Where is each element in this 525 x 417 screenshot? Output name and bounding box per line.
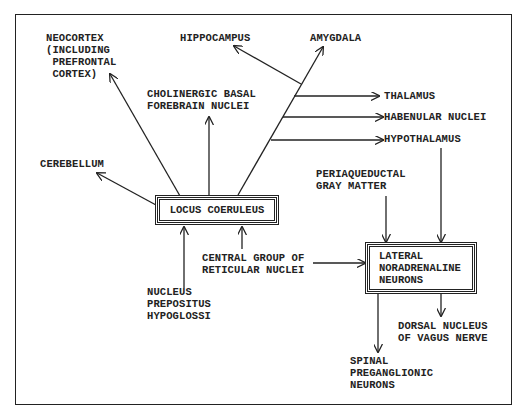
node-lateral-noradrenaline-label: LATERAL NORADRENALINE NEURONS [379, 250, 461, 286]
node-habenular: HABENULAR NUCLEI [384, 111, 486, 123]
node-locus-coeruleus-label: LOCUS COERULEUS [170, 204, 265, 216]
node-hypothalamus: HYPOTHALAMUS [384, 133, 461, 145]
node-periaqueductal: PERIAQUEDUCTAL GRAY MATTER [316, 168, 406, 192]
node-central-group: CENTRAL GROUP OF RETICULAR NUCLEI [202, 252, 304, 276]
node-spinal: SPINAL PREGANGLIONIC NEURONS [350, 355, 433, 391]
node-thalamus: THALAMUS [384, 90, 435, 102]
node-amygdala: AMYGDALA [310, 32, 361, 44]
edge-lc-cerebellum [97, 173, 156, 205]
node-locus-coeruleus: LOCUS COERULEUS [155, 195, 279, 225]
node-cholinergic: CHOLINERGIC BASAL FOREBRAIN NUCLEI [147, 88, 256, 112]
edge-lc-hippocampus [234, 46, 301, 84]
node-neocortex: NEOCORTEX (INCLUDING PREFRONTAL CORTEX) [46, 32, 116, 80]
edge-lc-amygdala [238, 47, 323, 195]
node-dorsal-vagus: DORSAL NUCLEUS OF VAGUS NERVE [398, 320, 488, 344]
node-lateral-noradrenaline: LATERAL NORADRENALINE NEURONS [365, 242, 477, 294]
node-cerebellum: CEREBELLUM [40, 158, 104, 170]
node-hippocampus: HIPPOCAMPUS [180, 32, 250, 44]
node-nucleus-prepositus: NUCLEUS PREPOSITUS HYPOGLOSSI [147, 286, 211, 322]
